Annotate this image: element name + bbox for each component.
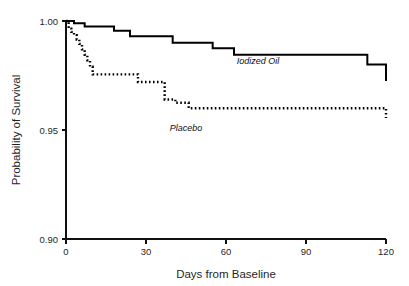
y-tick-label: 0.90 [40,234,59,245]
x-axis-tick-labels: 0306090120 [63,246,394,257]
x-tick-label: 120 [378,246,394,257]
x-tick-label: 60 [221,246,232,257]
x-tick-label: 30 [141,246,152,257]
y-axis-title: Probability of Survival [10,75,22,186]
y-tick-label: 1.00 [40,16,59,27]
survival-chart-figure: 0.900.951.00 0306090120 Iodized Oil Plac… [0,0,409,286]
series-line-placebo [66,21,386,118]
y-axis-tick-labels: 0.900.951.00 [40,16,59,245]
series-label-iodized-oil: Iodized Oil [237,56,281,66]
x-tick-label: 90 [301,246,312,257]
y-tick-label: 0.95 [40,125,59,136]
x-axis-ticks [66,239,386,244]
x-axis-title: Days from Baseline [176,268,276,280]
x-tick-label: 0 [63,246,68,257]
chart-canvas: 0.900.951.00 0306090120 Iodized Oil Plac… [0,0,409,286]
series-line-iodized-oil [66,21,386,81]
series-label-placebo: Placebo [170,123,203,133]
